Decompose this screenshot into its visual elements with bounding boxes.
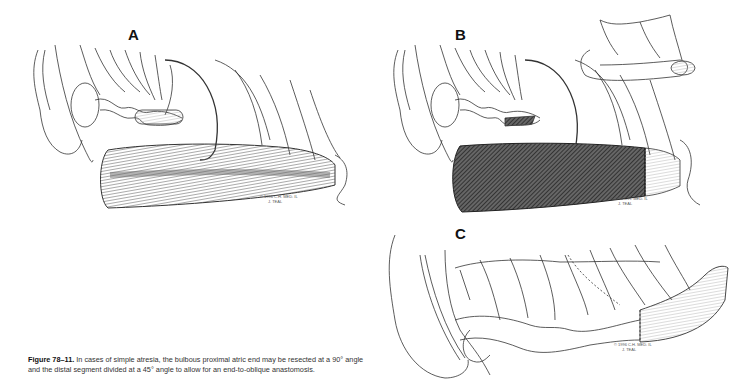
signature-a-line2: J. TEAL <box>260 199 298 204</box>
figure-caption: Figure 78–11. In cases of simple atresia… <box>28 355 368 375</box>
signature-b-line2: J. TEAL <box>610 201 648 206</box>
caption-text: In cases of simple atresia, the bulbous … <box>28 355 363 374</box>
figure-number: Figure 78–11. <box>28 355 74 364</box>
figure-illustrations <box>0 0 732 390</box>
panel-label-a: A <box>128 26 139 43</box>
panel-c-drawing <box>389 235 690 378</box>
panel-label-b: B <box>455 26 466 43</box>
signature-a: © 1996 C.H. MED. IL J. TEAL <box>260 194 298 204</box>
panel-label-c: C <box>455 225 466 242</box>
signature-b: © 1996 C.H. MED. IL J. TEAL <box>610 196 648 206</box>
signature-c: © 1996 C.H. MED. IL J. TEAL <box>614 342 652 352</box>
signature-c-line2: J. TEAL <box>614 347 652 352</box>
